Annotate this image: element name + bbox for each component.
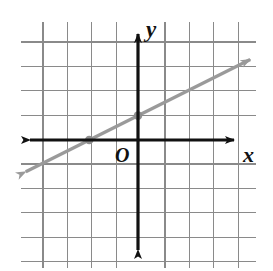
graph-canvas: [0, 0, 273, 271]
coordinate-plane-figure: y x O: [0, 0, 273, 271]
y-axis-label: y: [146, 18, 156, 41]
grid-vertical-lines: [43, 22, 238, 268]
x-axis-label: x: [243, 144, 254, 166]
origin-label: O: [115, 145, 129, 165]
